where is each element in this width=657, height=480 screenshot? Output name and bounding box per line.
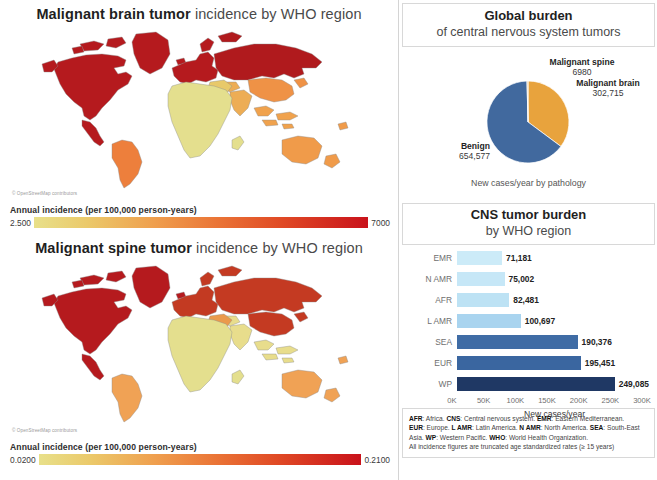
abbr-namr-def: : North America. xyxy=(541,424,590,431)
pie-slices xyxy=(487,81,569,163)
x-axis-tick: 250K xyxy=(601,396,619,405)
abbr-afr: AFR xyxy=(409,415,423,422)
bar-fill xyxy=(457,314,521,328)
bar-row: WP249,085 xyxy=(400,375,657,392)
abbr-emr-def: : Eastern Mediterranean. xyxy=(552,415,625,422)
spine-legend-gradient xyxy=(39,454,362,465)
spine-map-title: Malignant spine tumor incidence by WHO r… xyxy=(0,240,398,256)
charts-column: Global burden of central nervous system … xyxy=(400,0,657,480)
bar-track: 249,085 xyxy=(457,377,655,391)
abbr-sea: SEA xyxy=(590,424,604,431)
abbr-emr: EMR xyxy=(537,415,552,422)
abbr-lamr-def: : Latin America. xyxy=(472,424,519,431)
brain-map-title: Malignant brain tumor incidence by WHO r… xyxy=(0,6,398,22)
abbr-wp: WP xyxy=(426,434,437,441)
bar-value-label: 75,002 xyxy=(505,274,535,284)
bar-row: AFR82,481 xyxy=(400,291,657,308)
pie-label-benign-value: 654,577 xyxy=(408,151,490,161)
bar-value-label: 190,376 xyxy=(578,337,612,347)
cns-burden-title: CNS tumor burden xyxy=(403,207,654,223)
abbr-who-def: : World Health Organization. xyxy=(505,434,588,441)
bar-track: 82,481 xyxy=(457,293,655,307)
brain-map-legend: Annual incidence (per 100,000 person-yea… xyxy=(10,205,390,228)
bar-track: 195,451 xyxy=(457,356,655,370)
abbr-eur: EUR xyxy=(409,424,423,431)
abbr-eur-def: : Europe. xyxy=(423,424,452,431)
global-burden-title: Global burden xyxy=(403,8,654,24)
bar-row: SEA190,376 xyxy=(400,333,657,350)
cns-burden-header: CNS tumor burden by WHO region xyxy=(402,203,655,245)
abbr-cns: CNS xyxy=(446,415,460,422)
bar-category-label: EUR xyxy=(400,358,457,368)
abbr-who: WHO xyxy=(489,434,505,441)
bar-fill xyxy=(457,335,578,349)
bar-value-label: 249,085 xyxy=(615,379,649,389)
bar-fill xyxy=(457,251,502,265)
bar-fill xyxy=(457,293,509,307)
bar-category-label: EMR xyxy=(400,253,457,263)
spine-legend-max: 0.2100 xyxy=(364,455,390,465)
x-axis-tick: 50K xyxy=(477,396,491,405)
bar-fill xyxy=(457,356,581,370)
maps-column: Malignant brain tumor incidence by WHO r… xyxy=(0,0,398,480)
spine-legend-min: 0.0200 xyxy=(10,455,36,465)
spine-legend-bar: 0.0200 0.2100 xyxy=(10,454,390,465)
column-divider xyxy=(398,0,399,480)
bar-track: 71,181 xyxy=(457,251,655,265)
bar-row: EMR71,181 xyxy=(400,249,657,266)
bar-category-label: AFR xyxy=(400,295,457,305)
pie-label-spine-name: Malignant spine xyxy=(522,57,642,67)
x-axis-tick: 300K xyxy=(633,396,651,405)
pie-label-brain-value: 302,715 xyxy=(560,88,656,98)
abbr-afr-def: : Africa. xyxy=(423,415,447,422)
bar-row: L AMR100,697 xyxy=(400,312,657,329)
spine-map-attribution: © OpenStreetMap contributors xyxy=(12,428,77,433)
brain-legend-min: 2.500 xyxy=(10,218,31,228)
bar-category-label: L AMR xyxy=(400,316,457,326)
x-axis-tick: 100K xyxy=(506,396,524,405)
pie-label-brain-name: Malignant brain xyxy=(560,78,656,88)
abbr-namr: N AMR xyxy=(519,424,540,431)
bar-value-label: 100,697 xyxy=(521,316,555,326)
pie-label-brain: Malignant brain 302,715 xyxy=(560,78,656,98)
brain-map-svg xyxy=(0,28,398,194)
global-burden-subtitle: of central nervous system tumors xyxy=(403,24,654,40)
x-axis-tick: 200K xyxy=(570,396,588,405)
bar-category-label: SEA xyxy=(400,337,457,347)
spine-map-legend: Annual incidence (per 100,000 person-yea… xyxy=(10,442,390,465)
bar-fill xyxy=(457,272,505,286)
pie-label-spine-value: 6980 xyxy=(522,67,642,77)
brain-map-attribution: © OpenStreetMap contributors xyxy=(12,191,77,196)
bar-category-label: N AMR xyxy=(400,274,457,284)
brain-map-title-rest: incidence by WHO region xyxy=(191,6,362,22)
x-axis-tick: 0K xyxy=(447,396,456,405)
bar-row: N AMR75,002 xyxy=(400,270,657,287)
bar-track: 190,376 xyxy=(457,335,655,349)
abbr-lamr: L AMR xyxy=(452,424,473,431)
bar-value-label: 71,181 xyxy=(502,253,532,263)
bar-value-label: 82,481 xyxy=(509,295,539,305)
spine-map-title-bold: Malignant spine tumor xyxy=(35,240,192,256)
brain-legend-bar: 2.500 7000 xyxy=(10,217,390,228)
cns-burden-subtitle: by WHO region xyxy=(403,223,654,239)
bar-fill xyxy=(457,377,615,391)
abbr-wp-def: : Western Pacific. xyxy=(436,434,489,441)
x-axis-tick: 150K xyxy=(538,396,556,405)
brain-legend-gradient xyxy=(34,217,368,228)
pie-label-benign: Benign 654,577 xyxy=(408,141,490,161)
infographic-root: Malignant brain tumor incidence by WHO r… xyxy=(0,0,657,480)
brain-map-title-bold: Malignant brain tumor xyxy=(36,6,190,22)
abbreviations-footnote: AFR: Africa. CNS: Central nervous system… xyxy=(402,408,655,458)
pie-label-benign-name: Benign xyxy=(408,141,490,151)
brain-legend-max: 7000 xyxy=(371,218,390,228)
pie-label-spine: Malignant spine 6980 xyxy=(522,57,642,77)
abbr-cns-def: : Central nervous system. xyxy=(460,415,537,422)
pathology-pie-chart: Malignant spine 6980 Malignant brain 302… xyxy=(400,52,657,192)
spine-legend-label: Annual incidence (per 100,000 person-yea… xyxy=(10,442,390,452)
spine-world-map xyxy=(0,262,398,428)
brain-world-map xyxy=(0,28,398,194)
bar-value-label: 195,451 xyxy=(581,358,615,368)
spine-map-title-rest: incidence by WHO region xyxy=(192,240,363,256)
who-region-bar-chart: EMR71,181N AMR75,002AFR82,481L AMR100,69… xyxy=(400,249,657,419)
pie-caption: New cases/year by pathology xyxy=(400,178,657,188)
